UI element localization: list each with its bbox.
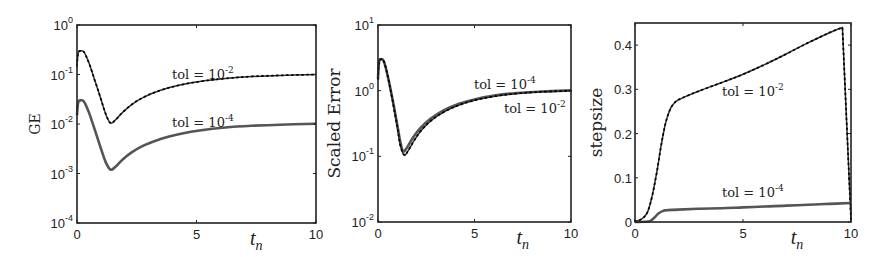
y-tick-label: 10-3: [51, 164, 73, 182]
y-tick-label: 0.1: [614, 171, 632, 186]
y-tick-label: 0.2: [614, 127, 632, 142]
chart-ge: tol = 10-2tol = 10-4051010010-110-210-31…: [27, 15, 323, 253]
series-line-tol-1e-4: [77, 100, 316, 170]
x-tick-label: 0: [374, 226, 381, 241]
y-tick-label: 10-2: [352, 212, 374, 230]
x-tick-label: 10: [309, 227, 323, 242]
y-axis-label: stepsize: [586, 88, 606, 158]
plot-frame: [378, 25, 571, 222]
chart-scaled-error: tol = 10-4tol = 10-2051010110010-110-2tn…: [324, 15, 578, 252]
series-label: tol = 10-4: [722, 183, 784, 200]
y-tick-label: 100: [54, 15, 73, 33]
x-tick-label: 10: [844, 226, 858, 241]
y-axis-label: GE: [27, 113, 43, 134]
chart-stepsize: tol = 10-2tol = 10-4051000.10.20.30.4tns…: [586, 23, 858, 252]
series-label: tol = 10-4: [474, 75, 536, 92]
y-tick-label: 0: [625, 215, 632, 230]
series-label: tol = 10-2: [504, 99, 566, 116]
x-tick-label: 0: [73, 227, 80, 242]
series-label: tol = 10-2: [172, 65, 234, 82]
x-axis-label: tn: [250, 227, 263, 253]
y-tick-label: 0.4: [614, 38, 632, 53]
x-tick-label: 5: [739, 226, 746, 241]
x-tick-label: 0: [631, 226, 638, 241]
y-tick-label: 101: [355, 15, 374, 33]
x-tick-label: 10: [564, 226, 578, 241]
figure-canvas: tol = 10-2tol = 10-4051010010-110-210-31…: [0, 0, 891, 257]
series-label: tol = 10-2: [722, 82, 784, 99]
series-label: tol = 10-4: [172, 113, 234, 130]
series-markers: [77, 51, 316, 124]
y-tick-label: 10-1: [51, 65, 73, 83]
y-tick-label: 10-2: [51, 114, 73, 132]
figure: tol = 10-2tol = 10-4051010010-110-210-31…: [0, 0, 891, 257]
x-tick-label: 5: [193, 227, 200, 242]
y-tick-label: 10-1: [352, 146, 374, 164]
x-axis-label: tn: [516, 226, 529, 252]
series-line-tol-1e-2: [77, 51, 316, 124]
x-tick-label: 5: [471, 226, 478, 241]
y-tick-label: 100: [355, 81, 374, 99]
y-axis-label: Scaled Error: [324, 68, 344, 179]
y-tick-label: 0.3: [614, 82, 632, 97]
x-axis-label: tn: [791, 226, 804, 252]
y-tick-label: 10-4: [51, 213, 73, 231]
